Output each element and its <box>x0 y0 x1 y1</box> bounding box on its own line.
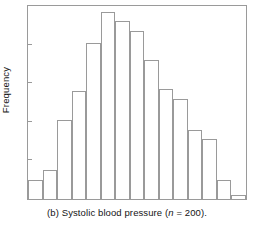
histogram-bar <box>159 89 174 199</box>
y-axis-label-container: Frequency <box>0 0 22 202</box>
x-axis-tick <box>245 195 246 199</box>
y-axis-tick <box>28 44 32 45</box>
caption-suffix: = 200). <box>174 207 207 218</box>
x-axis-tick <box>28 195 29 199</box>
y-axis-tick <box>28 159 32 160</box>
histogram-bar <box>72 91 87 199</box>
histogram-bar <box>231 195 246 199</box>
histogram-bar <box>202 139 217 199</box>
y-axis-tick <box>28 5 32 6</box>
x-axis-tick <box>86 195 87 199</box>
x-axis-tick <box>202 195 203 199</box>
x-axis-tick <box>159 195 160 199</box>
histogram-figure: Frequency (b) Systolic blood pressure (n… <box>0 0 254 228</box>
figure-caption: (b) Systolic blood pressure (n = 200). <box>0 207 254 218</box>
histogram-bar <box>188 130 203 199</box>
histogram-bar <box>173 99 188 199</box>
histogram-bar <box>130 31 145 199</box>
x-axis-tick <box>188 195 189 199</box>
y-axis-label: Frequency <box>0 40 11 140</box>
histogram-bar <box>28 180 43 199</box>
histogram-bar <box>101 12 116 199</box>
x-axis-tick <box>144 195 145 199</box>
histogram-bar <box>43 170 58 199</box>
x-axis-tick <box>57 195 58 199</box>
histogram-bar <box>217 180 232 199</box>
x-axis-tick <box>217 195 218 199</box>
x-axis-tick <box>72 195 73 199</box>
x-axis-tick <box>231 195 232 199</box>
y-axis-tick <box>28 121 32 122</box>
histogram-bar <box>115 21 130 199</box>
histogram-bar <box>57 120 72 199</box>
caption-prefix: (b) Systolic blood pressure ( <box>47 207 168 218</box>
y-axis-tick <box>28 82 32 83</box>
x-axis-tick <box>115 195 116 199</box>
x-axis-tick <box>130 195 131 199</box>
histogram-bar <box>144 60 159 199</box>
histogram-bar <box>86 43 101 199</box>
x-axis-tick <box>101 195 102 199</box>
x-axis-tick <box>43 195 44 199</box>
bars-container <box>28 6 246 199</box>
plot-area <box>27 5 247 200</box>
x-axis-tick <box>173 195 174 199</box>
